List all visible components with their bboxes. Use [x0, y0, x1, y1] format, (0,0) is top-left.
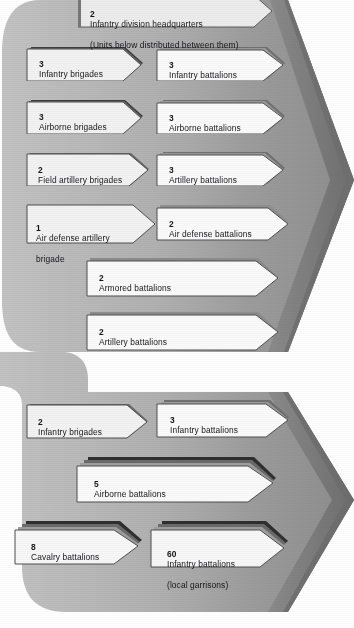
row-count: 3 [170, 415, 175, 425]
row-airborne-battalions-text: 3 Airborne battalions [169, 102, 241, 134]
row-count: 3 [169, 60, 174, 70]
row-label: Armored battalions [99, 283, 171, 293]
row-label: Cavalry battalions [31, 552, 99, 562]
row-label: Artillery battalions [99, 337, 167, 347]
row-infantry-battalions-2: 3 Infantry battalions [155, 400, 295, 438]
row-airborne-battalions: 3 Airborne battalions [155, 100, 290, 134]
row-air-defense-artillery-brigade-text: 1 Air defense artillery brigade [36, 212, 110, 265]
row-airborne-brigades: 3 Airborne brigades [25, 100, 150, 134]
row-count: 2 [38, 417, 43, 427]
row-count: 1 [36, 223, 41, 233]
row-label-2: brigade [36, 254, 65, 264]
row-airborne-brigades-text: 3 Airborne brigades [39, 101, 107, 133]
row-label: Air defense battalions [169, 229, 252, 239]
row-count: 5 [94, 479, 99, 489]
row-field-artillery-brigades: 2 Field artillery brigades [25, 152, 155, 186]
row-count: 8 [31, 542, 36, 552]
division-header-arrow: 2 Infantry division headquarters (Units … [78, 0, 274, 30]
row-count: 2 [99, 327, 104, 337]
row-label: Infantry battalions [167, 559, 235, 569]
row-infantry-brigades-2-text: 2 Infantry brigades [38, 406, 102, 438]
row-infantry-battalions-garrison-text: 60 Infantry battalions (local garrisons) [167, 538, 235, 591]
row-label: Airborne battalions [169, 123, 241, 133]
row-label: Airborne brigades [39, 122, 107, 132]
row-infantry-battalions: 3 Infantry battalions [155, 47, 290, 81]
row-air-defense-artillery-brigade: 1 Air defense artillery brigade [25, 203, 160, 245]
row-label: Infantry battalions [169, 70, 237, 80]
row-air-defense-battalions-text: 2 Air defense battalions [169, 208, 252, 240]
row-label-2: (local garrisons) [167, 580, 228, 590]
row-infantry-brigades: 3 Infantry brigades [25, 47, 150, 81]
row-armored-battalions-text: 2 Armored battalions [99, 262, 171, 294]
row-artillery-battalions-2-text: 2 Artillery battalions [99, 316, 167, 348]
row-count: 3 [169, 113, 174, 123]
row-count: 2 [169, 219, 174, 229]
row-infantry-brigades-text: 3 Infantry brigades [39, 48, 103, 80]
row-infantry-brigades-2: 2 Infantry brigades [25, 403, 155, 439]
row-count: 3 [39, 59, 44, 69]
row-artillery-battalions-1-text: 3 Artillery battalions [169, 154, 237, 186]
row-count: 3 [39, 112, 44, 122]
row-label: Artillery battalions [169, 175, 237, 185]
row-airborne-battalions-2-text: 5 Airborne battalions [94, 468, 166, 500]
row-count: 3 [169, 165, 174, 175]
row-count: 2 [38, 165, 43, 175]
division-header-label: Infantry division headquarters [90, 19, 203, 29]
row-cavalry-battalions-text: 8 Cavalry battalions [31, 531, 99, 563]
row-infantry-battalions-2-text: 3 Infantry battalions [170, 404, 238, 436]
division-header-count: 2 [90, 9, 95, 19]
row-label: Field artillery brigades [38, 175, 122, 185]
row-label: Infantry brigades [39, 69, 103, 79]
row-label: Infantry battalions [170, 425, 238, 435]
row-field-artillery-brigades-text: 2 Field artillery brigades [38, 154, 122, 186]
row-artillery-battalions-2: 2 Artillery battalions [86, 312, 301, 352]
row-label: Infantry brigades [38, 427, 102, 437]
row-artillery-battalions-1: 3 Artillery battalions [155, 152, 290, 186]
row-airborne-battalions-2: 5 Airborne battalions [76, 457, 306, 505]
row-count: 2 [99, 273, 104, 283]
row-label: Air defense artillery [36, 233, 110, 243]
row-cavalry-battalions: 8 Cavalry battalions [14, 521, 156, 567]
row-count: 60 [167, 549, 177, 559]
row-armored-battalions: 2 Armored battalions [86, 258, 301, 298]
diagram-canvas: 2 Infantry division headquarters (Units … [0, 0, 354, 628]
row-label: Airborne battalions [94, 489, 166, 499]
row-infantry-battalions-garrison: 60 Infantry battalions (local garrisons) [150, 521, 302, 571]
row-air-defense-battalions: 2 Air defense battalions [155, 205, 295, 241]
division-header-text: 2 Infantry division headquarters (Units … [90, 0, 239, 51]
row-infantry-battalions-text: 3 Infantry battalions [169, 49, 237, 81]
